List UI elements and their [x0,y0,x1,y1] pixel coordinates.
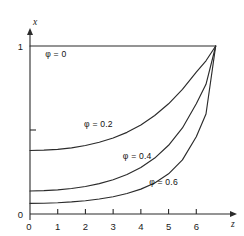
y-tick-label: 0 [18,209,23,220]
y-axis-arrow [27,28,33,35]
curve-1 [30,46,216,151]
x-tick-label: 0 [26,221,31,232]
x-axis-arrow [230,211,237,217]
y-tick-labels: 10 [18,41,23,220]
x-tick-label: 2 [83,221,88,232]
curve-3 [30,46,216,203]
curve-labels: φ = 0φ = 0.2φ = 0.4φ = 0.6 [45,49,178,187]
curve-group [30,46,216,203]
x-tick-label: 5 [166,221,171,232]
x-tick-label: 1 [55,221,60,232]
x-axis-label: z [230,219,235,229]
curve-label-2: φ = 0.4 [123,151,152,161]
curve-label-3: φ = 0.6 [149,177,178,187]
x-tick-labels: 0123456 [26,221,199,232]
curve-2 [30,46,216,191]
chart-svg: 0123456 10 φ = 0φ = 0.2φ = 0.4φ = 0.6 z … [0,0,244,236]
chart-figure: 0123456 10 φ = 0φ = 0.2φ = 0.4φ = 0.6 z … [0,0,244,236]
curve-label-0: φ = 0 [45,49,66,59]
y-axis-label: x [32,17,38,27]
x-tick-label: 3 [110,221,115,232]
x-tick-label: 6 [194,221,199,232]
curve-label-1: φ = 0.2 [84,119,113,129]
y-tick-label: 1 [18,41,23,52]
x-tick-label: 4 [138,221,143,232]
